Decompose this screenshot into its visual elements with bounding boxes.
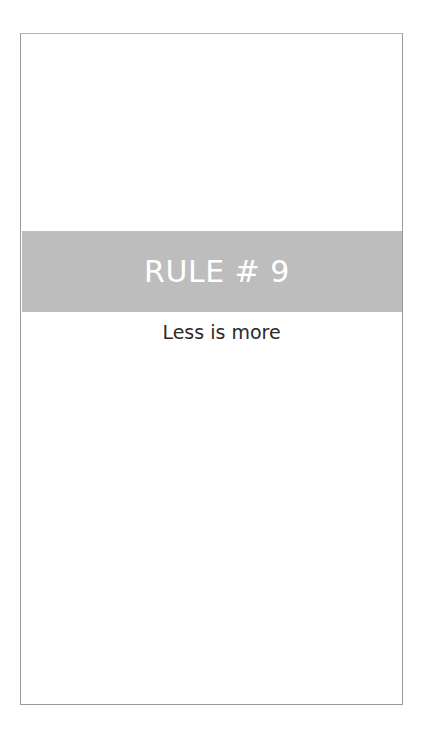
rule-card: RULE # 9 Less is more <box>20 33 403 705</box>
rule-subtitle: Less is more <box>21 321 402 343</box>
rule-title: RULE # 9 <box>22 231 402 312</box>
title-band: RULE # 9 <box>22 231 402 312</box>
